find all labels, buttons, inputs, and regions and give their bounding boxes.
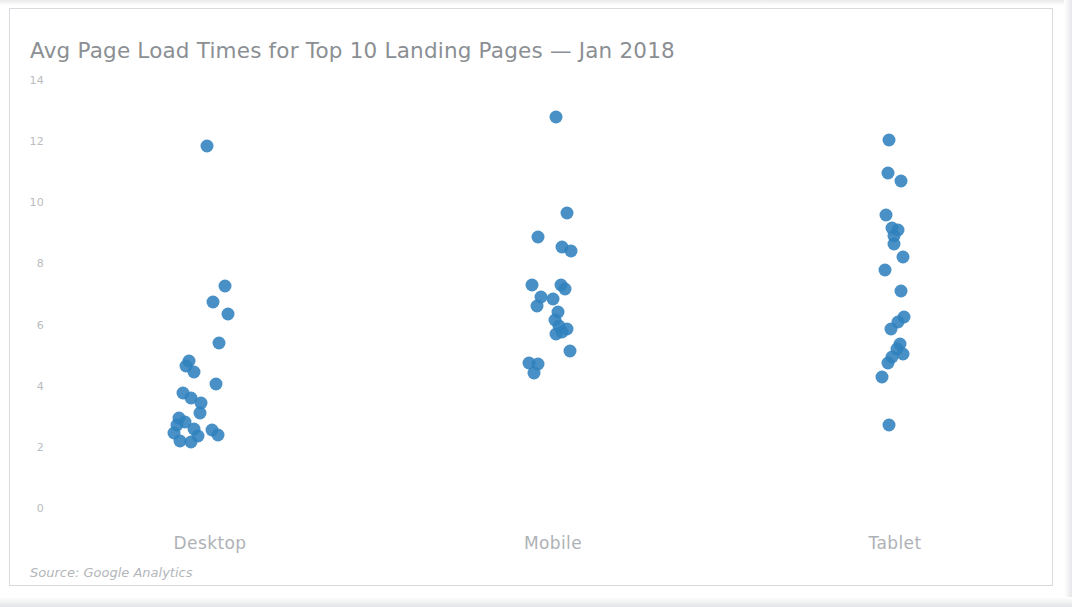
data-point bbox=[222, 307, 235, 320]
data-point bbox=[207, 295, 220, 308]
x-tick-label-desktop: Desktop bbox=[174, 533, 247, 553]
data-point bbox=[883, 419, 896, 432]
data-point bbox=[881, 167, 894, 180]
data-point bbox=[880, 208, 893, 221]
data-point bbox=[547, 292, 560, 305]
source-note: Source: Google Analytics bbox=[30, 565, 192, 580]
data-point bbox=[895, 174, 908, 187]
data-point bbox=[211, 428, 224, 441]
y-tick-label: 4 bbox=[8, 379, 44, 392]
data-point bbox=[532, 231, 545, 244]
data-point bbox=[895, 284, 908, 297]
data-point bbox=[184, 436, 197, 449]
data-point bbox=[550, 327, 563, 340]
y-tick-label: 6 bbox=[8, 318, 44, 331]
data-point bbox=[565, 245, 578, 258]
data-point bbox=[883, 133, 896, 146]
data-point bbox=[527, 367, 540, 380]
data-point bbox=[526, 278, 539, 291]
y-tick-label: 14 bbox=[8, 74, 44, 87]
data-point bbox=[881, 356, 894, 369]
y-tick-label: 0 bbox=[8, 502, 44, 515]
y-tick-label: 8 bbox=[8, 257, 44, 270]
data-point bbox=[213, 336, 226, 349]
y-tick-label: 10 bbox=[8, 196, 44, 209]
data-point bbox=[878, 263, 891, 276]
data-point bbox=[201, 139, 214, 152]
data-point bbox=[559, 283, 572, 296]
y-tick-label: 2 bbox=[8, 440, 44, 453]
data-point bbox=[187, 365, 200, 378]
data-point bbox=[896, 251, 909, 264]
scatter-plot-area: 02468101214 DesktopMobileTablet bbox=[0, 0, 1072, 607]
x-tick-label-mobile: Mobile bbox=[524, 533, 582, 553]
y-tick-label: 12 bbox=[8, 135, 44, 148]
data-point bbox=[550, 110, 563, 123]
data-point bbox=[560, 206, 573, 219]
data-point bbox=[887, 237, 900, 250]
data-point bbox=[563, 344, 576, 357]
data-point bbox=[193, 407, 206, 420]
data-point bbox=[219, 280, 232, 293]
chart-screenshot: Avg Page Load Times for Top 10 Landing P… bbox=[0, 0, 1072, 607]
x-tick-label-tablet: Tablet bbox=[868, 533, 921, 553]
data-point bbox=[884, 323, 897, 336]
data-point bbox=[875, 370, 888, 383]
data-point bbox=[210, 378, 223, 391]
data-point bbox=[530, 300, 543, 313]
